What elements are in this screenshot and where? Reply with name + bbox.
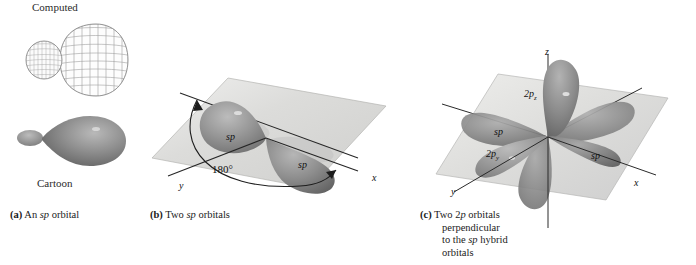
- panel-c-label-2py-main: 2p: [486, 148, 496, 159]
- panel-c-axis-z-label: z: [545, 46, 549, 57]
- computed-label: Computed: [32, 1, 78, 13]
- panel-c: z x y 2pz 2py sp sp (c) Two 2p orbitals …: [420, 0, 696, 265]
- panel-b-axis-x-label: x: [372, 172, 376, 183]
- caption-b: (b) Two sp orbitals: [150, 209, 230, 222]
- caption-a-italic: sp: [40, 209, 49, 220]
- panel-c-label-2pz-main: 2p: [524, 88, 534, 99]
- sp-orbital-cartoon: [14, 112, 139, 174]
- caption-c-line-3: to the sp hybrid: [420, 234, 550, 247]
- panel-b-angle-label: 180°: [212, 163, 233, 175]
- sp-orbital-wireframe: [14, 18, 134, 103]
- panel-c-label-2pz: 2pz: [524, 88, 537, 101]
- caption-c-line-3-b: hybrid: [478, 234, 508, 245]
- panel-c-label-2pz-sub: z: [534, 94, 537, 101]
- caption-c: (c) Two 2p orbitals perpendicular to the…: [420, 209, 550, 259]
- panel-b-lobe-label-left: sp: [226, 131, 235, 142]
- panel-b-lobe-label-right: sp: [298, 159, 307, 170]
- caption-c-line-2: perpendicular: [420, 222, 550, 235]
- panel-b: sp sp 180° x y (b) Two sp orbitals: [150, 0, 400, 265]
- cartoon-label: Cartoon: [37, 177, 72, 189]
- caption-a-text-2: orbital: [49, 209, 79, 220]
- caption-c-line-1: (c) Two 2p orbitals: [420, 209, 550, 222]
- caption-c-line-1-a: Two 2: [434, 209, 460, 220]
- panel-c-lobe-label-left: sp: [494, 126, 503, 137]
- panel-b-diagram: [150, 58, 400, 258]
- caption-c-line-4: orbitals: [420, 247, 550, 260]
- panel-a: Computed: [0, 0, 150, 200]
- orbital-figure: Computed: [0, 0, 696, 265]
- panel-b-axis-y-label: y: [179, 180, 183, 191]
- panel-c-axis-y-label: y: [451, 186, 455, 197]
- caption-a-text-1: An: [24, 209, 39, 220]
- caption-c-line-3-italic: sp: [468, 234, 477, 245]
- caption-a: (a) An sp orbital: [10, 209, 79, 222]
- panel-c-label-2py: 2py: [486, 148, 499, 161]
- caption-a-tag: (a): [10, 209, 22, 220]
- caption-c-line-1-b: orbitals: [466, 209, 500, 220]
- panel-c-lobe-label-right: sp: [591, 150, 600, 161]
- caption-b-text-2: orbitals: [196, 209, 230, 220]
- panel-c-label-2py-sub: y: [496, 154, 499, 161]
- caption-b-italic: sp: [186, 209, 195, 220]
- caption-c-line-3-a: to the: [442, 234, 468, 245]
- caption-b-tag: (b): [150, 209, 163, 220]
- panel-c-axis-x-label: x: [634, 177, 638, 188]
- caption-b-text-1: Two: [165, 209, 186, 220]
- caption-c-tag: (c): [420, 209, 432, 220]
